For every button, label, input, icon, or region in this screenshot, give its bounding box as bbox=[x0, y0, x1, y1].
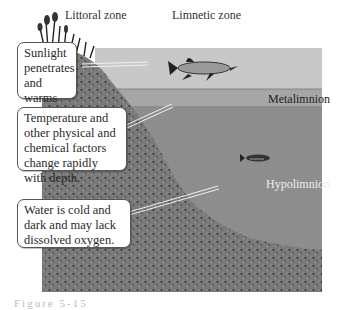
hypolimnion-label: Hypolimnion bbox=[266, 177, 330, 192]
callout-temperature: Temperature and other physical and chemi… bbox=[17, 107, 127, 171]
limnetic-zone-label: Limnetic zone bbox=[172, 8, 241, 23]
callout-sunlight: Sunlight penetrates and warms the water. bbox=[17, 42, 77, 99]
figure-caption: Figure 5-15 bbox=[14, 297, 88, 309]
littoral-zone-label: Littoral zone bbox=[65, 8, 127, 23]
callout-cold-water: Water is cold and dark and may lack diss… bbox=[17, 199, 131, 248]
metalimnion-label: Metalimnion bbox=[268, 92, 330, 107]
